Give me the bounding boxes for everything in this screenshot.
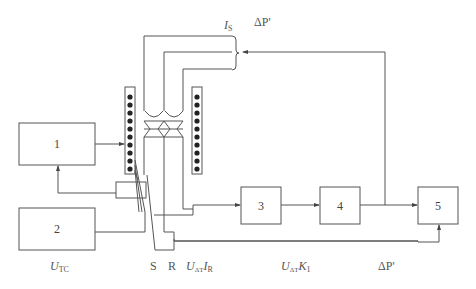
control-diagram: 1 2 3 4 5 xyxy=(0,0,476,289)
svg-text:2: 2 xyxy=(54,222,60,236)
svg-text:4: 4 xyxy=(337,199,343,213)
label-dp-top: ΔP' xyxy=(254,15,271,29)
label-u-ir: UΔTIR xyxy=(186,259,213,274)
thermocouple-leads xyxy=(58,137,418,250)
arrow-to-block-3 xyxy=(183,175,240,209)
heater-coil-left xyxy=(125,87,135,174)
feedback-dp-line xyxy=(243,52,385,205)
block-1: 1 xyxy=(19,123,95,165)
label-is: IS xyxy=(223,18,232,33)
arrow-to-block-5 xyxy=(174,225,439,242)
label-s: S xyxy=(150,259,157,273)
label-r: R xyxy=(168,259,176,273)
block-3: 3 xyxy=(241,187,281,224)
svg-text:5: 5 xyxy=(435,199,441,213)
lead-junction xyxy=(154,209,193,215)
block-5: 5 xyxy=(418,187,458,224)
block-2: 2 xyxy=(19,208,95,250)
label-u-k1: UΔTK1 xyxy=(281,259,310,274)
block-4: 4 xyxy=(320,187,360,224)
label-utc: UTC xyxy=(50,259,69,274)
heater-coil-right xyxy=(192,87,202,174)
svg-text:3: 3 xyxy=(258,199,264,213)
svg-text:1: 1 xyxy=(54,137,60,151)
label-dp-bottom: ΔP' xyxy=(378,259,395,273)
